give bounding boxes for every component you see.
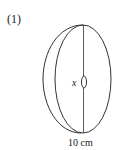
diameter-dimension-label: 10 cm — [68, 137, 93, 149]
disc-diagram — [0, 0, 119, 150]
hole-ellipse — [82, 76, 87, 88]
hole-variable-label: x — [72, 77, 76, 89]
